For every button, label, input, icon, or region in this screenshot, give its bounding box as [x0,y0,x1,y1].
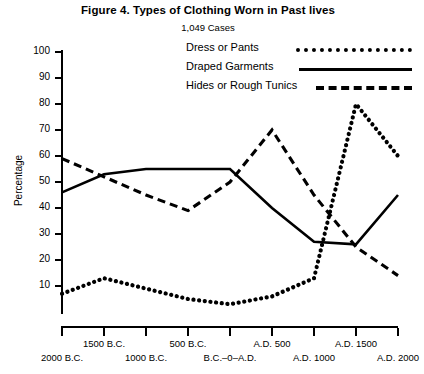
series-line-dress-or-pants [62,104,398,304]
series-line-hides-or-rough-tunics [62,130,398,276]
